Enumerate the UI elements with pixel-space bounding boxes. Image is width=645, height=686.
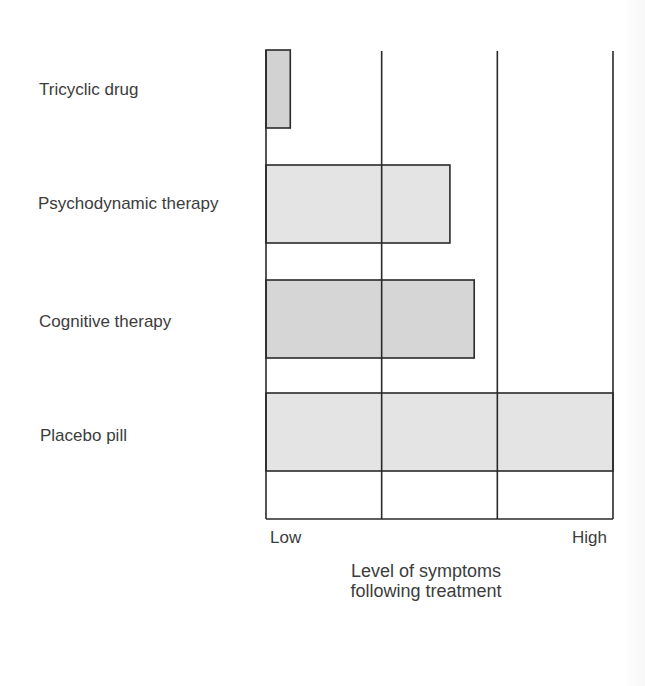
category-label-tricyclic-drug: Tricyclic drug xyxy=(39,80,139,100)
category-label-placebo-pill: Placebo pill xyxy=(40,426,127,446)
page-edge-shadow xyxy=(623,0,645,686)
x-axis-high-label: High xyxy=(572,528,607,548)
category-label-psychodynamic-therapy: Psychodynamic therapy xyxy=(38,194,218,214)
bar-tricyclic-drug xyxy=(266,50,290,128)
x-axis-title-line1: Level of symptoms xyxy=(300,561,552,581)
bar-placebo-pill xyxy=(266,393,613,471)
x-axis-title-line2: following treatment xyxy=(300,581,552,601)
category-label-cognitive-therapy: Cognitive therapy xyxy=(39,312,171,332)
x-axis-title: Level of symptoms following treatment xyxy=(300,561,552,601)
bar-cognitive-therapy xyxy=(266,280,474,358)
bar-psychodynamic-therapy xyxy=(266,165,450,243)
x-axis-low-label: Low xyxy=(270,528,301,548)
